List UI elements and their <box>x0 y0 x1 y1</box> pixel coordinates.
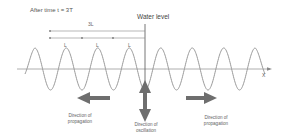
right-propagation-caption: Direction of propagation <box>196 115 236 127</box>
left-propagation-caption: Direction of propagation <box>60 113 100 125</box>
left-propagation-arrow <box>77 92 110 104</box>
oscillation-double-arrow <box>139 80 151 122</box>
wave-diagram <box>0 0 287 139</box>
x-axis-arrowhead <box>267 67 272 71</box>
time-label: After time t = 3T <box>30 7 73 13</box>
x-axis-label: X <box>262 72 265 78</box>
water-level-label: Water level <box>137 13 169 20</box>
right-propagation-arrow <box>186 92 217 104</box>
oscillation-caption: Direction of oscillation <box>126 122 166 134</box>
bracket-L-label-2: L <box>96 42 99 48</box>
bracket-L-label-3: L <box>128 42 131 48</box>
bracket-L-label-1: L <box>64 42 67 48</box>
bracket-3L-label: 3L <box>88 21 94 27</box>
